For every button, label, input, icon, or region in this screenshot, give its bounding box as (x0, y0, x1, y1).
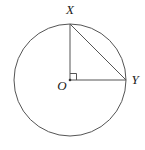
geometry-figure: X O Y (0, 0, 145, 150)
right-angle-icon (70, 74, 77, 81)
center-point-dot (69, 79, 72, 82)
vertex-label-y: Y (131, 72, 140, 87)
geometry-canvas: X O Y (0, 0, 145, 150)
vertex-label-o: O (57, 78, 67, 93)
segment-chord-xy (70, 24, 126, 80)
vertex-label-x: X (65, 2, 75, 17)
